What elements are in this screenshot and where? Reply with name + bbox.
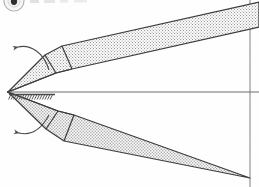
apex-vertex <box>7 91 9 93</box>
upper-wedge <box>8 2 259 92</box>
technical-drawing <box>0 0 259 187</box>
figure-number-badge <box>4 0 87 11</box>
lower-wedge <box>8 92 250 178</box>
figure-canvas <box>0 0 259 187</box>
